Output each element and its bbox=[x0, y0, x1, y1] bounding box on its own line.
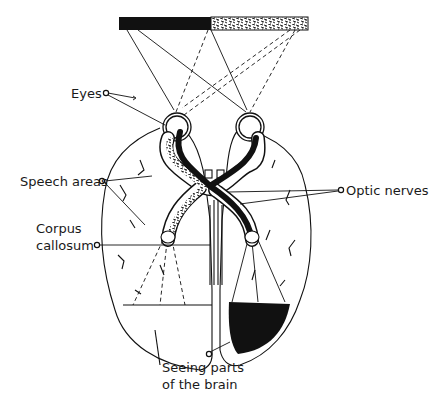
visual-pathway-diagram: Eyes Speech areas Corpus callosum Optic … bbox=[0, 0, 435, 400]
brain-outline bbox=[102, 125, 311, 370]
label-corpus-callosum-line1: Corpus bbox=[36, 221, 82, 236]
diagram-drawing bbox=[0, 0, 435, 400]
visual-field-bar bbox=[119, 17, 308, 30]
label-speech-areas: Speech areas bbox=[20, 174, 108, 189]
seeing-area-filled bbox=[229, 302, 290, 354]
leader-lines bbox=[100, 93, 338, 352]
label-seeing-parts-line2: of the brain bbox=[162, 377, 238, 392]
label-seeing-parts-line1: Seeing parts bbox=[162, 360, 244, 375]
sight-lines bbox=[127, 30, 300, 115]
optic-nerves bbox=[166, 132, 258, 240]
projection-lines bbox=[133, 240, 285, 305]
label-optic-nerves: Optic nerves bbox=[346, 183, 429, 198]
label-eyes: Eyes bbox=[71, 86, 102, 101]
label-corpus-callosum-line2: callosum bbox=[36, 238, 94, 253]
